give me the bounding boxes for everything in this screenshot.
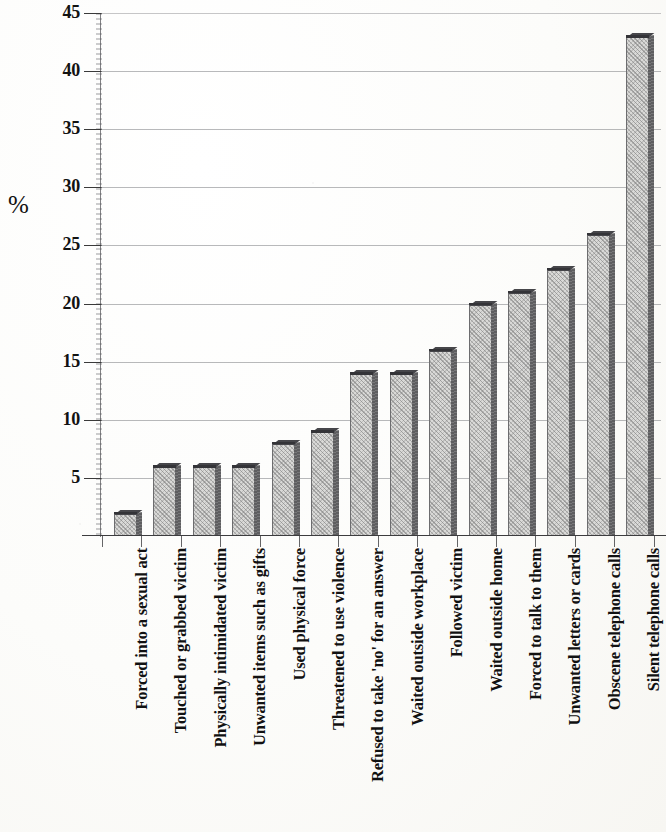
x-axis-category-label: Obscene telephone calls — [607, 548, 624, 828]
bar-front-face — [350, 373, 372, 536]
bar — [626, 36, 653, 536]
x-axis-tick-mark — [260, 536, 261, 547]
x-axis-tick-mark — [654, 536, 655, 547]
bar-top-edge — [153, 465, 176, 467]
y-axis-tick-label: 5 — [71, 467, 80, 488]
bar — [153, 466, 180, 536]
bar-top-edge — [390, 372, 413, 374]
x-axis-category-label: Silent telephone calls — [646, 548, 663, 828]
y-axis-tick-label: 40 — [63, 60, 80, 81]
y-axis-tick-label: 15 — [63, 351, 80, 372]
bar-front-face — [429, 350, 451, 536]
x-axis-tick-mark — [614, 536, 615, 547]
y-axis-tick-mark — [84, 187, 102, 188]
y-axis-tick-mark — [84, 71, 102, 72]
bar-front-face — [390, 373, 412, 536]
bar-side-face — [294, 442, 300, 536]
y-axis-tick-label: 35 — [63, 118, 80, 139]
y-axis-tick-label: 10 — [63, 409, 80, 430]
bar-front-face — [232, 466, 254, 536]
x-axis-category-label: Forced into a sexual act — [134, 548, 151, 828]
y-axis-tick-mark — [84, 129, 102, 130]
x-axis-tick-mark — [102, 536, 103, 547]
bar-side-face — [530, 291, 536, 536]
bar-top-edge — [114, 512, 137, 514]
bar — [547, 269, 574, 536]
y-axis-tick-label: 25 — [63, 234, 80, 255]
bar-top-edge — [587, 233, 610, 235]
bar-series — [101, 13, 666, 536]
bar — [193, 466, 220, 536]
x-axis-category-label: Used physical force — [292, 548, 309, 828]
bar-side-face — [372, 372, 378, 536]
bar — [114, 513, 141, 536]
bar-side-face — [451, 349, 457, 536]
y-axis-tick-mark — [84, 13, 102, 14]
bar — [272, 443, 299, 536]
bar-side-face — [136, 512, 142, 536]
bar — [429, 350, 456, 536]
bar-front-face — [547, 269, 569, 536]
y-axis-tick-label: 20 — [63, 293, 80, 314]
bar — [390, 373, 417, 536]
bar-top-edge — [626, 35, 649, 37]
bar-top-edge — [547, 268, 570, 270]
bar-side-face — [648, 35, 654, 536]
bar-side-face — [215, 465, 221, 536]
x-axis-tick-mark — [457, 536, 458, 547]
bar-front-face — [587, 234, 609, 536]
x-axis-category-label: Waited outside workplace — [410, 548, 427, 828]
bar-top-edge — [429, 349, 452, 351]
x-axis-category-label: Threatened to use violence — [331, 548, 348, 828]
x-axis-category-label: Touched or grabbed victim — [173, 548, 190, 828]
x-axis-category-label: Refused to take 'no' for an answer — [370, 548, 387, 828]
x-axis-category-label: Followed victim — [449, 548, 466, 828]
x-axis-labels: Forced into a sexual actTouched or grabb… — [101, 548, 666, 832]
x-axis-tick-mark — [496, 536, 497, 547]
y-axis-tick-mark — [84, 245, 102, 246]
x-axis-baseline — [82, 535, 666, 536]
bar-front-face — [626, 36, 648, 536]
bar-chart-figure: % 51015202530354045 Forced into a sexual… — [0, 0, 666, 832]
bar — [587, 234, 614, 536]
bar-side-face — [412, 372, 418, 536]
bar-side-face — [569, 268, 575, 536]
bar-side-face — [175, 465, 181, 536]
x-axis-tick-mark — [378, 536, 379, 547]
bar — [469, 304, 496, 536]
y-axis-tick-mark — [84, 362, 102, 363]
y-axis-tick-label: 30 — [63, 176, 80, 197]
bar — [350, 373, 377, 536]
bar-front-face — [311, 431, 333, 536]
x-axis-tick-mark — [181, 536, 182, 547]
x-axis-tick-mark — [575, 536, 576, 547]
y-axis-tick-mark — [84, 478, 102, 479]
x-axis-tick-mark — [338, 536, 339, 547]
bar-top-edge — [469, 303, 492, 305]
bar-front-face — [469, 304, 491, 536]
bar-top-edge — [350, 372, 373, 374]
bar-front-face — [153, 466, 175, 536]
x-axis-category-label: Unwanted items such as gifts — [252, 548, 269, 828]
bar-side-face — [333, 430, 339, 536]
x-axis-tick-mark — [220, 536, 221, 547]
x-axis-category-label: Forced to talk to them — [528, 548, 545, 828]
bar-side-face — [609, 233, 615, 536]
bar-top-edge — [311, 430, 334, 432]
bar-top-edge — [193, 465, 216, 467]
bar-front-face — [508, 292, 530, 536]
bar-front-face — [193, 466, 215, 536]
bar-side-face — [254, 465, 260, 536]
bar — [311, 431, 338, 536]
y-axis-tick-mark — [84, 420, 102, 421]
x-axis-category-label: Unwanted letters or cards — [567, 548, 584, 828]
bar-top-edge — [232, 465, 255, 467]
bar-side-face — [491, 303, 497, 536]
x-axis-tick-mark — [535, 536, 536, 547]
bar — [508, 292, 535, 536]
bar-front-face — [114, 513, 136, 536]
x-axis-tick-mark — [417, 536, 418, 547]
x-axis-tick-mark — [141, 536, 142, 547]
bar-front-face — [272, 443, 294, 536]
bar-top-edge — [508, 291, 531, 293]
